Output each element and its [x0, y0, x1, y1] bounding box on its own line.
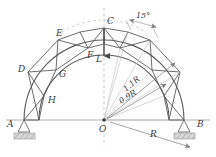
arch-truss-diagram: A D H G E F C B O L 1.1R 0.9R R 15° [0, 0, 216, 157]
dimension-label-base-radius: R [149, 129, 157, 139]
radial-construction-lines [104, 32, 180, 120]
node-label-E: E [55, 28, 63, 38]
node-label-A: A [6, 119, 14, 129]
center-label-O: O [99, 124, 107, 134]
segment-angle-label: 15° [136, 11, 150, 20]
node-label-C: C [107, 16, 114, 26]
support-left [14, 120, 35, 139]
dimension-label-inner-radius: 0.9R [117, 88, 138, 106]
load-label: L [95, 54, 102, 64]
node-label-B: B [196, 119, 204, 129]
segment-angle-marker [126, 20, 158, 38]
center-point [102, 118, 106, 122]
node-label-F: F [86, 50, 94, 60]
node-label-G: G [59, 69, 66, 79]
web-members-right [104, 28, 184, 120]
dimension-line-inner-radius [107, 84, 166, 119]
figure-canvas: A D H G E F C B O L 1.1R 0.9R R 15° [0, 0, 216, 157]
support-right [174, 120, 195, 139]
node-label-H: H [47, 95, 56, 105]
node-label-D: D [17, 64, 25, 74]
